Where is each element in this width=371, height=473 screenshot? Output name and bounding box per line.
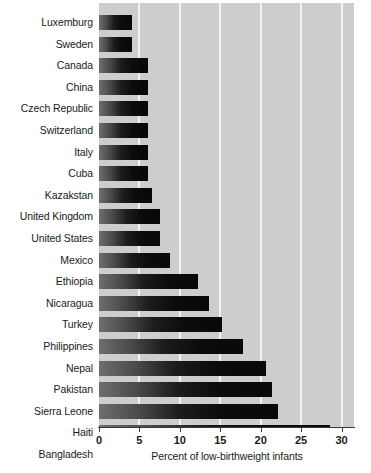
- x-tick-label: 25: [281, 434, 321, 446]
- bar: [99, 166, 148, 181]
- bar: [99, 101, 148, 116]
- bar: [99, 339, 243, 354]
- category-label: United States: [0, 231, 93, 246]
- low-birthweight-bar-chart: LuxemburgSwedenCanadaChinaCzech Republic…: [0, 0, 371, 473]
- bar: [99, 382, 272, 397]
- x-tick-label: 20: [241, 434, 281, 446]
- bar: [99, 15, 132, 30]
- x-tick-5: [139, 427, 140, 432]
- bar: [99, 145, 148, 160]
- category-label: Ethiopia: [0, 274, 93, 289]
- gridline-25: [300, 3, 302, 427]
- bar: [99, 296, 209, 311]
- bar: [99, 361, 266, 376]
- category-label: Bangladesh: [0, 447, 93, 462]
- category-label: Italy: [0, 145, 93, 160]
- x-tick-label: 0: [79, 434, 119, 446]
- category-label: Sweden: [0, 37, 93, 52]
- category-label: Philippines: [0, 339, 93, 354]
- bar: [99, 209, 160, 224]
- x-axis-line: [98, 427, 355, 428]
- x-tick-label: 5: [119, 434, 159, 446]
- gridline-30: [341, 3, 343, 427]
- category-label: Mexico: [0, 253, 93, 268]
- category-label: Luxemburg: [0, 15, 93, 30]
- bar: [99, 37, 132, 52]
- bar: [99, 274, 198, 289]
- x-tick-label: 10: [160, 434, 200, 446]
- bar: [99, 80, 148, 95]
- x-tick-10: [180, 427, 181, 432]
- category-label: Kazakstan: [0, 188, 93, 203]
- bar: [99, 317, 222, 332]
- category-label: United Kingdom: [0, 209, 93, 224]
- category-label: Sierra Leone: [0, 404, 93, 419]
- category-label: China: [0, 80, 93, 95]
- x-tick-label: 30: [322, 434, 362, 446]
- category-label: Cuba: [0, 166, 93, 181]
- x-tick-20: [261, 427, 262, 432]
- x-tick-label: 15: [200, 434, 240, 446]
- category-label: Nepal: [0, 361, 93, 376]
- category-axis-labels: LuxemburgSwedenCanadaChinaCzech Republic…: [0, 3, 93, 427]
- category-label: Canada: [0, 58, 93, 73]
- category-label: Turkey: [0, 317, 93, 332]
- bar: [99, 404, 278, 419]
- x-tick-25: [301, 427, 302, 432]
- bar: [99, 188, 152, 203]
- category-label: Nicaragua: [0, 296, 93, 311]
- bar: [99, 58, 148, 73]
- x-axis-title: Percent of low-birthweight infants: [99, 450, 355, 462]
- category-label: Pakistan: [0, 382, 93, 397]
- category-label: Switzerland: [0, 123, 93, 138]
- bar: [99, 253, 170, 268]
- x-tick-30: [342, 427, 343, 432]
- plot-area: [99, 3, 354, 427]
- bar: [99, 123, 148, 138]
- x-tick-0: [99, 427, 100, 432]
- x-tick-15: [220, 427, 221, 432]
- category-label: Czech Republic: [0, 101, 93, 116]
- bar: [99, 231, 160, 246]
